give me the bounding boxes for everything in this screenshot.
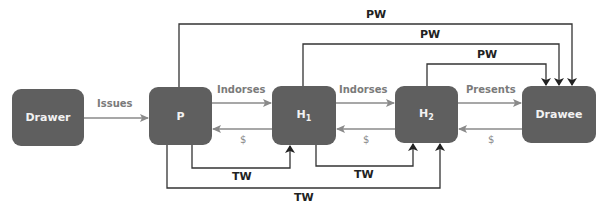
tw-label-left: TW bbox=[232, 171, 252, 183]
pw-label-mid: PW bbox=[420, 29, 440, 41]
drawer-node: Drawer bbox=[12, 89, 84, 146]
payee-label: P bbox=[176, 110, 184, 123]
indorses-label-1: Indorses bbox=[217, 84, 266, 96]
tw-label-right: TW bbox=[354, 169, 374, 181]
drawee-node: Drawee bbox=[522, 86, 596, 143]
holder1-node: H1 bbox=[272, 86, 336, 145]
payment-label-1: $ bbox=[240, 134, 246, 146]
drawee-label: Drawee bbox=[535, 108, 582, 121]
issues-label: Issues bbox=[97, 98, 132, 110]
holder1-label: H1 bbox=[297, 108, 312, 123]
payee-node: P bbox=[149, 87, 212, 145]
pw-line-top bbox=[179, 24, 572, 87]
payment-label-3: $ bbox=[488, 134, 494, 146]
presents-label: Presents bbox=[466, 84, 516, 96]
payment-label-2: $ bbox=[363, 134, 369, 146]
indorses-label-2: Indorses bbox=[339, 84, 388, 96]
pw-label-low: PW bbox=[477, 49, 497, 61]
pw-line-low bbox=[427, 64, 546, 86]
drawer-label: Drawer bbox=[25, 111, 70, 124]
tw-line-left bbox=[192, 145, 290, 168]
tw-line-right bbox=[316, 144, 413, 166]
tw-label-outer: TW bbox=[294, 192, 314, 204]
pw-line-mid bbox=[303, 44, 559, 86]
pw-label-top: PW bbox=[366, 9, 386, 21]
holder2-label: H2 bbox=[419, 107, 434, 122]
holder2-node: H2 bbox=[395, 86, 458, 143]
